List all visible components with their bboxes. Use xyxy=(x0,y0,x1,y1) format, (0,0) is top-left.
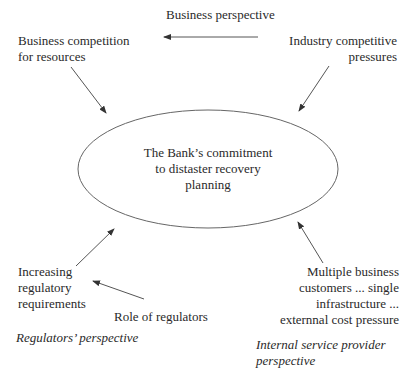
arrow-customers-to-center xyxy=(298,222,323,263)
arrow-regulatory-to-center xyxy=(76,229,114,266)
label-internal-provider-perspective: Internal service provider perspective xyxy=(256,337,385,369)
label-regulators-perspective: Regulators’ perspective xyxy=(16,330,138,346)
label-business-competition: Business competition for resources xyxy=(18,33,130,65)
label-multiple-customers: Multiple business customers ... single i… xyxy=(280,264,399,328)
label-regulatory-requirements: Increasing regulatory requirements xyxy=(18,264,86,312)
label-role-of-regulators: Role of regulators xyxy=(114,309,208,325)
label-business-perspective: Business perspective xyxy=(166,7,275,23)
label-center-commitment: The Bank’s commitment to distaster recov… xyxy=(138,145,278,193)
arrow-industry-to-center xyxy=(299,66,329,111)
arrow-regulators-to-requirements xyxy=(93,281,144,299)
arrow-competition-to-center xyxy=(71,67,106,113)
label-industry-pressures: Industry competitive pressures xyxy=(289,33,397,65)
